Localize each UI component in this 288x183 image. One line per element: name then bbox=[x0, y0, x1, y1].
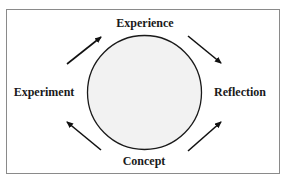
center-circle bbox=[88, 36, 202, 150]
label-reflection: Reflection bbox=[214, 86, 266, 98]
label-experience: Experience bbox=[116, 17, 173, 29]
arrow-experiment-to-experience bbox=[67, 37, 101, 64]
label-concept: Concept bbox=[123, 155, 166, 167]
arrow-concept-to-reflection bbox=[188, 122, 221, 151]
label-experiment: Experiment bbox=[14, 86, 75, 98]
arrow-concept-to-experiment bbox=[67, 122, 101, 150]
arrow-experience-to-reflection bbox=[188, 36, 221, 63]
